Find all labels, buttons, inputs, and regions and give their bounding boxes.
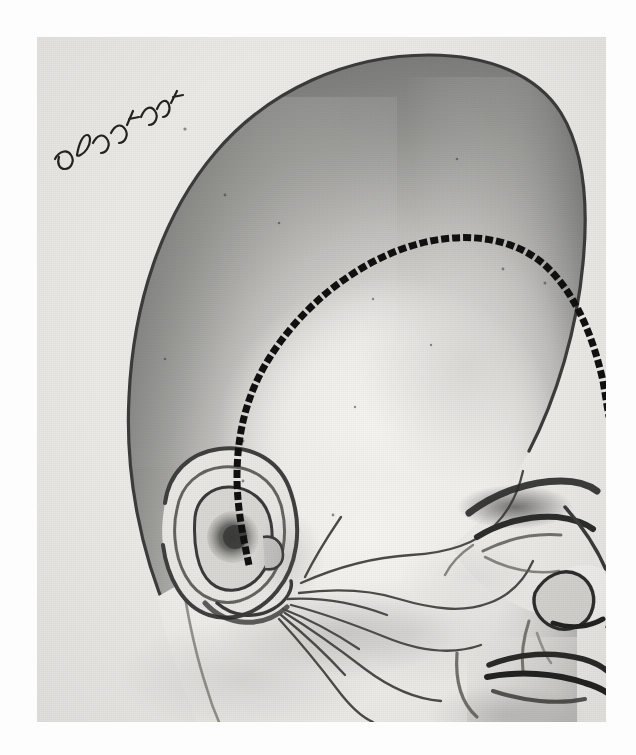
signature-description: artist's cursive monogram initials on th…: [0, 0, 1, 1]
figure-title: Infant head in right lateral profile wit…: [0, 0, 1, 1]
illustration-canvas: [37, 37, 606, 722]
nasal-ala: [534, 572, 594, 629]
ear-label: external ear (auricle): [0, 0, 1, 1]
incision-line-label: scalp incision line: [0, 0, 1, 1]
mouth-label: mouth and lips: [0, 0, 1, 1]
figure-root: Infant head in right lateral profile wit…: [0, 0, 636, 755]
incision-line-description: Coronal / preauricular scalp flap incisi…: [0, 0, 1, 1]
figure-subject: Infant head and neck, lateral (profile) …: [0, 0, 1, 1]
zygoma-shading: [397, 541, 537, 613]
figure-alt-text: Grayscale surgical illustration of an in…: [0, 0, 1, 1]
eye-label: closed eye: [0, 0, 1, 1]
neck-label: neck: [0, 0, 1, 1]
nose-label: nose: [0, 0, 1, 1]
ear-preauricular-shadow: [253, 511, 325, 603]
illustration-plate: [37, 37, 606, 722]
facial-nerve-label: facial nerve branches: [0, 0, 1, 1]
